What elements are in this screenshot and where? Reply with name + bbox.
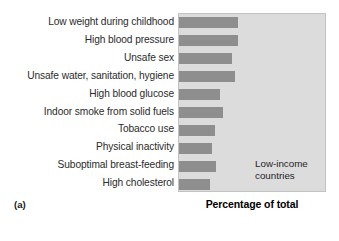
- plot-area: Low-income countries: [178, 13, 326, 192]
- category-label: Indoor smoke from solid fuels: [0, 106, 174, 117]
- series-annotation-line-2: countries: [255, 170, 325, 182]
- bar: [179, 143, 212, 154]
- bar: [179, 35, 238, 46]
- category-label: Low weight during childhood: [0, 16, 174, 27]
- figure-panel-a: Low weight during childhoodHigh blood pr…: [0, 0, 339, 241]
- category-label: Unsafe sex: [0, 52, 174, 63]
- category-label: High blood pressure: [0, 34, 174, 45]
- bar: [179, 125, 215, 136]
- category-label: Tobacco use: [0, 123, 174, 134]
- bar: [179, 17, 238, 28]
- category-label: High blood glucose: [0, 88, 174, 99]
- category-axis: Low weight during childhoodHigh blood pr…: [0, 13, 174, 192]
- bar: [179, 107, 223, 118]
- bar: [179, 89, 220, 100]
- bar: [179, 161, 216, 172]
- category-label: Suboptimal breast-feeding: [0, 159, 174, 170]
- category-label: Unsafe water, sanitation, hygiene: [0, 70, 174, 81]
- bar: [179, 53, 232, 64]
- panel-label: (a): [14, 199, 26, 210]
- category-label: Physical inactivity: [0, 141, 174, 152]
- series-annotation-line-1: Low-income: [255, 158, 325, 170]
- value-axis-title: Percentage of total: [178, 198, 326, 210]
- series-annotation: Low-income countries: [255, 158, 325, 182]
- bar: [179, 179, 210, 190]
- category-label: High cholesterol: [0, 177, 174, 188]
- bar: [179, 71, 235, 82]
